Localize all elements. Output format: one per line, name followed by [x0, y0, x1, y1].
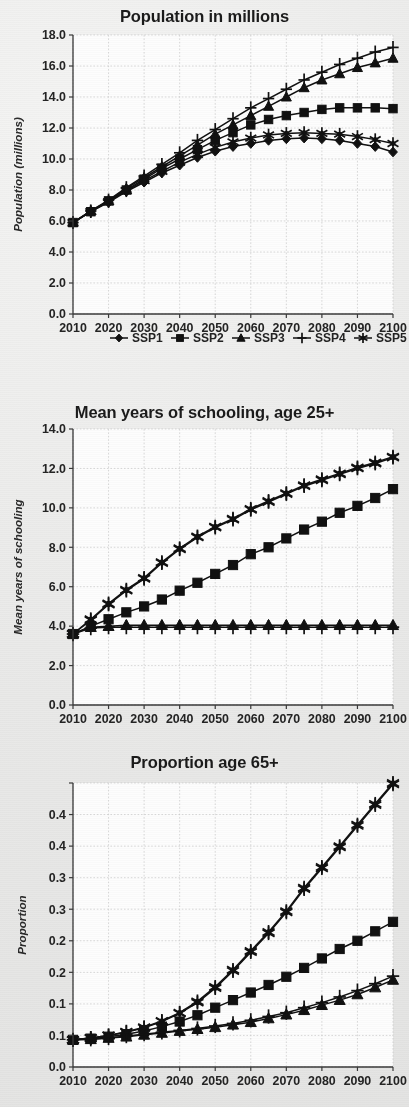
x-tick-label: 2050 [201, 712, 229, 726]
x-tick-label: 2080 [308, 712, 336, 726]
legend-label: SSP4 [315, 331, 346, 345]
marker-square [371, 494, 380, 503]
marker-square [228, 996, 237, 1005]
marker-square [157, 595, 166, 604]
y-tick-label: 18.0 [42, 28, 66, 42]
x-tick-label: 2070 [273, 1074, 301, 1088]
x-tick-label: 2030 [130, 1074, 158, 1088]
x-tick-label: 2020 [95, 1074, 123, 1088]
x-tick-label: 2040 [166, 321, 194, 335]
chart-legend: SSP1SSP2SSP3SSP4SSP5 [110, 331, 407, 345]
marker-square [193, 578, 202, 587]
legend-item-ssp4[interactable]: SSP4 [293, 331, 346, 345]
x-tick-label: 2080 [308, 1074, 336, 1088]
schooling-chart-plot: 0.02.04.06.08.010.012.014.02010202020302… [0, 421, 409, 739]
marker-square [353, 104, 361, 112]
marker-square [177, 335, 184, 342]
marker-square [335, 104, 343, 112]
x-tick-label: 2090 [344, 1074, 372, 1088]
marker-square [353, 936, 362, 945]
x-tick-label: 2070 [273, 712, 301, 726]
x-tick-label: 2010 [59, 1074, 87, 1088]
y-tick-label: 4.0 [49, 245, 66, 259]
y-tick-label: 0.3 [49, 903, 66, 917]
legend-label: SSP1 [132, 331, 163, 345]
chart-title-proportion: Proportion age 65+ [0, 740, 409, 771]
marker-square [193, 1011, 202, 1020]
population-chart-plot: 0.02.04.06.08.010.012.014.016.018.020102… [0, 25, 409, 380]
x-tick-label: 2100 [379, 1074, 407, 1088]
x-tick-label: 2100 [379, 712, 407, 726]
y-tick-label: 0.4 [49, 808, 66, 822]
x-tick-label: 2090 [344, 712, 372, 726]
x-tick-label: 2090 [344, 321, 372, 335]
x-tick-label: 2040 [166, 1074, 194, 1088]
marker-square [371, 104, 379, 112]
y-tick-label: 0.1 [49, 997, 66, 1011]
y-tick-label: 12.0 [42, 121, 66, 135]
y-tick-label: 10.0 [42, 501, 66, 515]
x-tick-label: 2020 [95, 321, 123, 335]
x-tick-label: 2010 [59, 321, 87, 335]
y-tick-label: 6.0 [49, 214, 66, 228]
marker-square [318, 105, 326, 113]
y-tick-label: 0.4 [49, 840, 66, 854]
x-tick-label: 2020 [95, 712, 123, 726]
marker-square [282, 972, 291, 981]
y-tick-label: 0.0 [49, 307, 66, 321]
chart-panel-proportion: Proportion age 65+ 0.00.10.10.20.20.30.3… [0, 740, 409, 1107]
x-tick-label: 2060 [237, 1074, 265, 1088]
y-axis-title: Mean years of schooling [11, 499, 24, 634]
marker-square [300, 108, 308, 116]
marker-square [264, 115, 272, 123]
marker-square [229, 129, 237, 137]
marker-square [264, 543, 273, 552]
y-tick-label: 14.0 [42, 422, 66, 436]
x-tick-label: 2010 [59, 712, 87, 726]
marker-diamond [115, 334, 122, 342]
y-tick-label: 12.0 [42, 462, 66, 476]
marker-square [247, 121, 255, 129]
legend-label: SSP5 [376, 331, 407, 345]
marker-square [317, 517, 326, 526]
y-tick-label: 0.2 [49, 966, 66, 980]
y-tick-label: 8.0 [49, 541, 66, 555]
y-tick-label: 2.0 [49, 659, 66, 673]
chart-title-population: Population in millions [0, 0, 409, 25]
y-tick-label: 0.1 [49, 1029, 66, 1043]
marker-square [246, 550, 255, 559]
x-tick-label: 2050 [201, 1074, 229, 1088]
proportion-chart-plot: 0.00.10.10.20.20.30.30.40.42010202020302… [0, 771, 409, 1103]
marker-square [282, 112, 290, 120]
y-tick-label: 16.0 [42, 59, 66, 73]
y-tick-label: 14.0 [42, 90, 66, 104]
marker-square [335, 945, 344, 954]
y-tick-label: 0.2 [49, 934, 66, 948]
y-tick-label: 0.3 [49, 871, 66, 885]
marker-square [317, 954, 326, 963]
x-tick-label: 2060 [237, 712, 265, 726]
y-axis-title: Proportion [15, 896, 28, 955]
x-tick-label: 2040 [166, 712, 194, 726]
marker-square [300, 525, 309, 534]
marker-square [228, 561, 237, 570]
marker-square [175, 586, 184, 595]
chart-title-schooling: Mean years of schooling, age 25+ [0, 390, 409, 421]
y-tick-label: 8.0 [49, 183, 66, 197]
y-tick-label: 2.0 [49, 276, 66, 290]
marker-square [371, 927, 380, 936]
marker-square [282, 534, 291, 543]
legend-label: SSP3 [254, 331, 285, 345]
y-tick-label: 0.0 [49, 698, 66, 712]
marker-square [353, 501, 362, 510]
y-tick-label: 4.0 [49, 620, 66, 634]
marker-square [335, 508, 344, 517]
marker-square [122, 608, 131, 617]
chart-panel-population: Population in millions 0.02.04.06.08.010… [0, 0, 409, 390]
x-tick-label: 2030 [130, 712, 158, 726]
marker-square [388, 485, 397, 494]
marker-square [211, 1003, 220, 1012]
y-axis-title: Population (millions) [11, 117, 24, 232]
marker-square [389, 105, 397, 113]
marker-square [264, 980, 273, 989]
